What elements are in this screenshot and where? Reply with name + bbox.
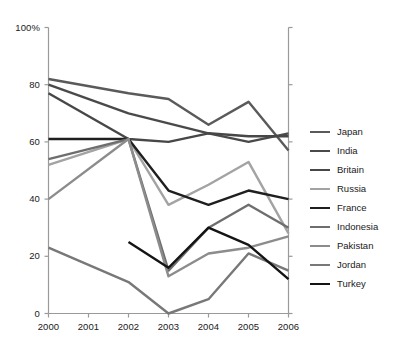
legend-swatch-icon — [310, 245, 330, 247]
y-tick-label: 100% — [0, 22, 40, 33]
legend-label: Indonesia — [337, 222, 378, 232]
legend-label: Britain — [337, 165, 364, 175]
legend-item-france[interactable]: France — [310, 198, 400, 217]
y-tick-label: 20 — [0, 250, 40, 261]
legend-label: Jordan — [337, 260, 366, 270]
legend-swatch-icon — [310, 264, 330, 266]
x-tick-label: 2004 — [189, 321, 229, 332]
legend-label: France — [337, 203, 367, 213]
legend-item-japan[interactable]: Japan — [310, 122, 400, 141]
legend-swatch-icon — [310, 207, 330, 209]
x-tick-label: 2000 — [29, 321, 69, 332]
x-tick-label: 2001 — [69, 321, 109, 332]
series-line-russia — [49, 139, 289, 233]
legend-label: Japan — [337, 127, 363, 137]
legend-item-turkey[interactable]: Turkey — [310, 274, 400, 293]
legend-swatch-icon — [310, 188, 330, 190]
x-tick-label: 2006 — [269, 321, 309, 332]
x-tick-label: 2003 — [149, 321, 189, 332]
chart-container: 020406080100%200020012002200320042005200… — [0, 0, 401, 353]
legend-swatch-icon — [310, 226, 330, 228]
legend-label: India — [337, 146, 358, 156]
legend-swatch-icon — [310, 283, 330, 285]
legend-swatch-icon — [310, 131, 330, 133]
legend-item-britain[interactable]: Britain — [310, 160, 400, 179]
legend-item-jordan[interactable]: Jordan — [310, 255, 400, 274]
y-tick-label: 0 — [0, 308, 40, 319]
series-line-jordan — [49, 248, 289, 314]
legend-swatch-icon — [310, 150, 330, 152]
legend-item-india[interactable]: India — [310, 141, 400, 160]
legend-item-russia[interactable]: Russia — [310, 179, 400, 198]
series-group — [49, 79, 289, 314]
y-tick-label: 40 — [0, 193, 40, 204]
legend-label: Russia — [337, 184, 366, 194]
chart-legend: JapanIndiaBritainRussiaFranceIndonesiaPa… — [310, 122, 400, 293]
x-tick-label: 2002 — [109, 321, 149, 332]
legend-label: Turkey — [337, 279, 366, 289]
y-tick-label: 80 — [0, 79, 40, 90]
x-tick-label: 2005 — [229, 321, 269, 332]
series-line-britain — [49, 93, 289, 142]
legend-label: Pakistan — [337, 241, 373, 251]
legend-item-pakistan[interactable]: Pakistan — [310, 236, 400, 255]
y-tick-label: 60 — [0, 136, 40, 147]
legend-item-indonesia[interactable]: Indonesia — [310, 217, 400, 236]
legend-swatch-icon — [310, 169, 330, 171]
